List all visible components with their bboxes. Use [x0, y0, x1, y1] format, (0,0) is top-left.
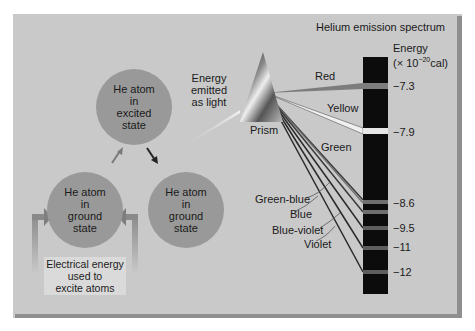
- color-label-violet: Violet: [304, 238, 331, 250]
- label-line: Electrical energy: [44, 258, 126, 270]
- atom-label-line: in: [81, 198, 90, 210]
- atom-excited-state: He atom in excited state: [96, 69, 172, 145]
- atom-ground-state-right: He atom in ground state: [148, 172, 224, 248]
- energy-axis-line2: (× 10−20cal): [393, 54, 448, 69]
- atom-label-line: state: [122, 119, 146, 131]
- atom-label-line: He atom: [64, 186, 106, 198]
- energy-tick: −11: [393, 241, 411, 253]
- label-line: used to: [44, 270, 126, 282]
- atom-label-line: He atom: [165, 186, 207, 198]
- atom-label-line: He atom: [113, 83, 155, 95]
- atom-label-line: excited: [117, 107, 152, 119]
- atom-label-line: state: [73, 222, 97, 234]
- atom-label-line: state: [174, 222, 198, 234]
- atom-label-line: ground: [169, 210, 203, 222]
- spectrum-bar: [363, 57, 388, 294]
- color-label-blue: Blue: [290, 208, 312, 220]
- label-line: Energy: [186, 72, 232, 84]
- excitation-arrow: [112, 147, 123, 163]
- energy-tick: −7.3: [393, 80, 415, 92]
- prism-label: Prism: [250, 124, 278, 136]
- unit-exponent: −20: [418, 56, 430, 63]
- energy-tick: −12: [393, 266, 412, 278]
- energy-emitted-label: Energy emitted as light: [186, 72, 232, 108]
- spectrum-title: Helium emission spectrum: [316, 21, 445, 33]
- energy-tick: −8.6: [393, 197, 415, 209]
- color-label-green: Green: [321, 141, 352, 153]
- color-label-green-blue: Green-blue: [255, 193, 310, 205]
- label-line: excite atoms: [44, 282, 126, 294]
- atom-label-line: in: [130, 95, 139, 107]
- unit-prefix: (× 10: [393, 57, 418, 69]
- atom-label-line: ground: [68, 210, 102, 222]
- atom-label-line: in: [182, 198, 191, 210]
- color-label-blue-violet: Blue-violet: [272, 224, 323, 236]
- label-line: as light: [186, 96, 232, 108]
- energy-axis-label: Energy (× 10−20cal): [393, 42, 448, 69]
- energy-tick: −7.9: [393, 126, 415, 138]
- electrical-energy-label: Electrical energy used to excite atoms: [44, 257, 126, 295]
- color-label-red: Red: [315, 70, 335, 82]
- emission-arrow: [147, 148, 158, 164]
- atom-ground-state-left: He atom in ground state: [47, 172, 123, 248]
- color-label-yellow: Yellow: [327, 102, 358, 114]
- label-line: emitted: [186, 84, 232, 96]
- prism-icon: [240, 52, 283, 122]
- unit-suffix: cal): [430, 57, 448, 69]
- light-beam: [176, 110, 240, 152]
- energy-tick: −9.5: [393, 222, 415, 234]
- energy-axis-line1: Energy: [393, 42, 448, 54]
